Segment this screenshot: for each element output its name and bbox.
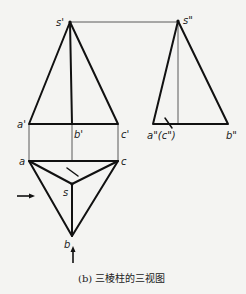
label-a-c-double-prime: a"(c")	[147, 130, 176, 141]
top-view: a c s b	[19, 156, 127, 250]
label-a: a	[19, 156, 25, 167]
three-view-drawing: s' a' b' c' s" a"(c") b" a c s b	[0, 0, 246, 294]
arrow-right-icon	[17, 194, 35, 199]
figure-caption: (b) 三棱柱的三视图	[78, 272, 165, 284]
label-b-prime: b'	[74, 129, 83, 140]
label-c: c	[121, 156, 127, 167]
label-b: b	[64, 239, 70, 250]
label-b-double-prime: b"	[226, 130, 237, 141]
label-a-prime: a'	[17, 119, 26, 130]
label-s-prime: s'	[56, 17, 64, 28]
front-view: s' a' b' c'	[17, 17, 129, 140]
label-c-prime: c'	[121, 129, 129, 140]
label-s-double-prime: s"	[183, 15, 193, 26]
arrow-up-icon	[71, 246, 76, 263]
side-view: s" a"(c") b"	[147, 15, 237, 141]
label-s: s	[63, 187, 68, 198]
